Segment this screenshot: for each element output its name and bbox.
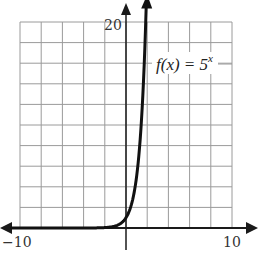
y-max-label: 20	[104, 17, 122, 33]
function-label: f(x) = 5x	[156, 52, 213, 74]
function-label-exponent: x	[207, 52, 213, 64]
x-axis-right-arrow-icon	[246, 222, 258, 234]
x-max-label: 10	[223, 234, 241, 250]
y-axis-up-arrow-icon	[121, 3, 131, 15]
exponential-graph: 20 −10 10 f(x) = 5x	[0, 0, 260, 268]
curve-up-arrow-icon	[141, 0, 152, 9]
function-label-base: f(x) = 5	[156, 55, 208, 74]
x-min-label: −10	[2, 234, 32, 250]
